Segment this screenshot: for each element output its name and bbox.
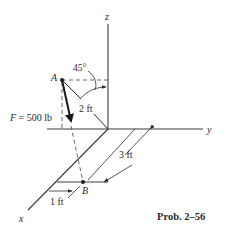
point-b-label: B <box>82 185 88 196</box>
point-a <box>60 78 64 82</box>
force-label: F = 500 lb <box>9 112 52 123</box>
point-a-label: A <box>50 72 58 83</box>
dimension-2ft-label: 2 ft <box>79 103 93 114</box>
dimension-3ft-label: 3 ft <box>119 149 133 160</box>
axes <box>28 24 203 210</box>
z-axis-label: z <box>104 11 109 22</box>
y-axis-label: y <box>206 124 212 135</box>
problem-diagram: z y x 45° A F = 500 lb 2 ft B 3 ft 1 ft … <box>0 0 226 228</box>
point-b <box>81 180 85 184</box>
dashed-to-b <box>71 126 83 182</box>
construction-lines <box>62 80 108 182</box>
angle-arc <box>88 71 96 90</box>
angle-arc-lower <box>81 87 106 98</box>
problem-caption: Prob. 2–56 <box>157 211 205 222</box>
angle-label: 45° <box>73 63 87 73</box>
force-arrow <box>62 80 71 121</box>
dimension-1ft-label: 1 ft <box>50 196 64 207</box>
x-axis-label: x <box>18 213 24 224</box>
